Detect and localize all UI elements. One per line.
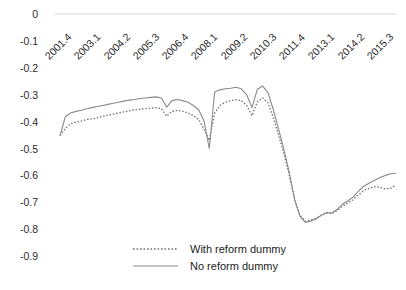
legend-label-with-reform-dummy: With reform dummy: [190, 244, 286, 255]
legend-label-no-reform-dummy: No reform dummy: [190, 261, 278, 272]
chart-container: 0-0.1-0.2-0.3-0.4-0.5-0.6-0.7-0.8-0.9 20…: [0, 0, 406, 290]
